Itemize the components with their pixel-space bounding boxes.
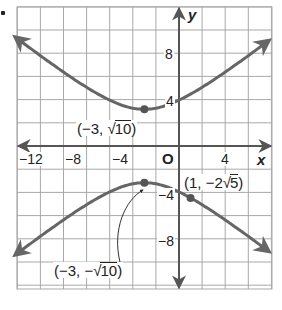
upper-branch-curve xyxy=(15,37,269,109)
y-axis-label: y xyxy=(188,7,196,22)
point-marker xyxy=(140,105,148,113)
vertex-bottom-label: (−3, −√10) xyxy=(53,262,123,278)
vertex-top-label: (−3, √10) xyxy=(76,120,137,136)
x-tick-label: 4 xyxy=(220,152,230,166)
grid-lines xyxy=(17,7,272,289)
y-tick-label: −8 xyxy=(157,234,175,248)
axes xyxy=(18,8,271,288)
y-tick-label: 8 xyxy=(164,47,174,61)
y-tick-label: −4 xyxy=(157,188,175,202)
x-tick-label: −12 xyxy=(18,152,44,166)
x-tick-label: −8 xyxy=(64,152,82,166)
x-axis-label: x xyxy=(257,152,265,167)
x-tick-label: −4 xyxy=(111,152,129,166)
point-marker xyxy=(187,194,195,202)
pointer-arrow xyxy=(118,190,143,262)
point-label: (1, −2√5) xyxy=(183,174,244,190)
y-tick-label: 4 xyxy=(165,94,175,108)
point-marker xyxy=(140,179,148,187)
lower-branch-curve xyxy=(15,183,269,255)
origin-label: O xyxy=(162,151,174,166)
